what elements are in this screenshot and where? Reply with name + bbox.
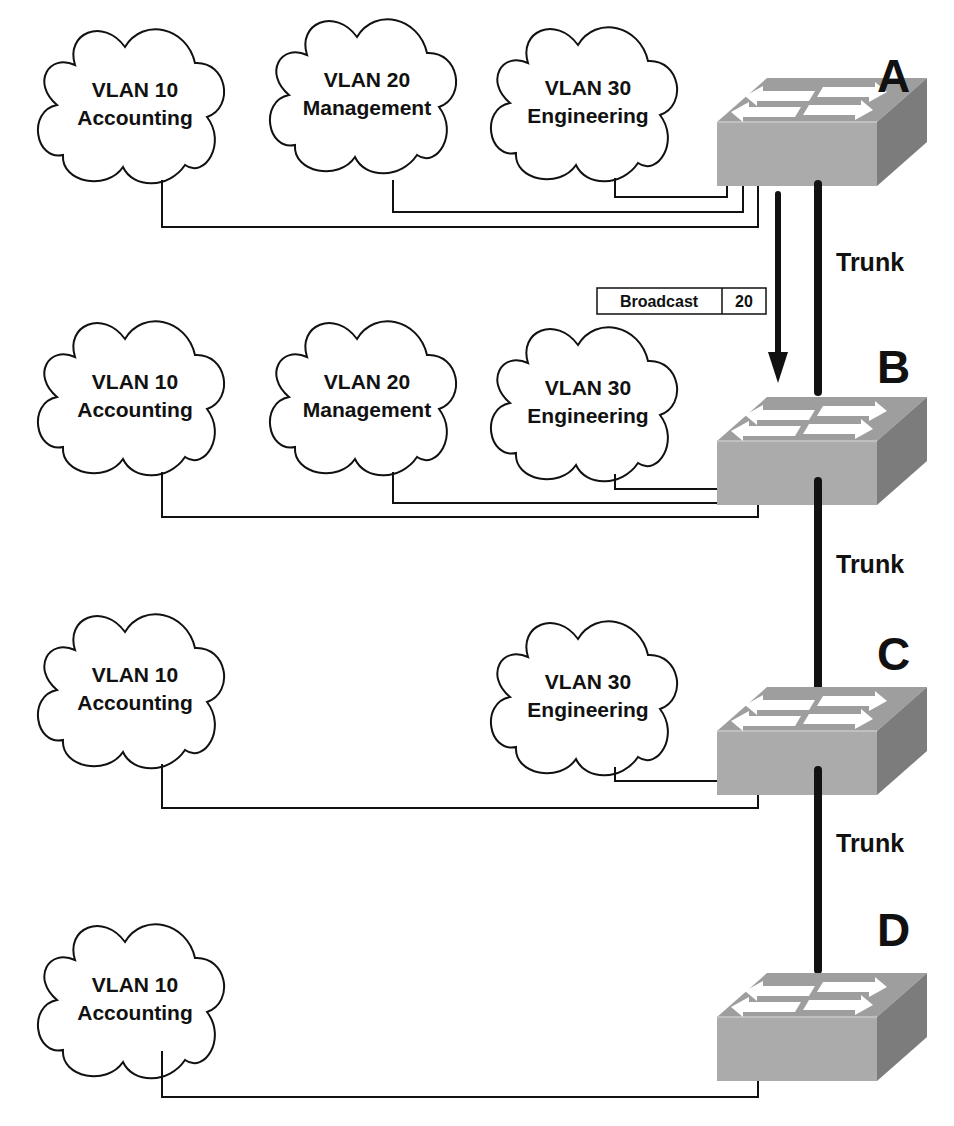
switch-d [717,973,927,1081]
cloud-vlan-name: Engineering [527,698,648,721]
switch-a-label: A [877,50,910,102]
access-links-a [162,178,758,227]
frame-type: Broadcast [620,293,699,310]
cloud-vlan-label: VLAN 10 [92,370,178,393]
row-c: VLAN 10 Accounting VLAN 30 Engineering C [38,614,927,808]
switch-b-label: B [877,341,910,393]
row-d: VLAN 10 Accounting D [38,904,927,1097]
row-a: VLAN 10 Accounting VLAN 20 Management VL… [38,19,927,227]
cloud-vlan-label: VLAN 30 [545,376,631,399]
cloud-vlan-label: VLAN 10 [92,973,178,996]
access-links-c [162,764,758,808]
switch-d-label: D [877,904,910,956]
broadcast-arrow [768,194,788,383]
cloud-vlan-label: VLAN 30 [545,670,631,693]
frame-vlan-tag: 20 [735,293,753,310]
switch-c-label: C [877,628,910,680]
cloud-vlan-name: Management [303,96,431,119]
cloud-vlan-name: Engineering [527,404,648,427]
cloud-vlan-name: Engineering [527,104,648,127]
cloud-vlan-name: Accounting [77,106,193,129]
row-b: VLAN 10 Accounting VLAN 20 Management VL… [38,321,927,517]
vlan-trunk-diagram: VLAN 10 Accounting VLAN 20 Management VL… [0,0,954,1126]
access-links-d [162,1051,758,1097]
cloud-vlan-name: Accounting [77,398,193,421]
cloud-vlan10-a: VLAN 10 Accounting [38,29,224,183]
cloud-vlan-name: Accounting [77,1001,193,1024]
cloud-vlan30-b: VLAN 30 Engineering [491,327,677,481]
cloud-vlan10-b: VLAN 10 Accounting [38,321,224,475]
broadcast-frame: Broadcast 20 [597,288,766,314]
access-links-b [162,472,758,517]
cloud-vlan30-a: VLAN 30 Engineering [491,27,677,181]
cloud-vlan-name: Management [303,398,431,421]
cloud-vlan-label: VLAN 30 [545,76,631,99]
cloud-vlan20-b: VLAN 20 Management [270,321,456,475]
trunk-label-bc: Trunk [836,550,904,578]
trunk-label-cd: Trunk [836,829,904,857]
cloud-vlan-label: VLAN 10 [92,663,178,686]
cloud-vlan-label: VLAN 10 [92,78,178,101]
cloud-vlan10-d: VLAN 10 Accounting [38,924,224,1078]
trunk-label-ab: Trunk [836,248,904,276]
cloud-vlan20-a: VLAN 20 Management [270,19,456,173]
cloud-vlan30-c: VLAN 30 Engineering [491,621,677,775]
cloud-vlan-name: Accounting [77,691,193,714]
cloud-vlan-label: VLAN 20 [324,68,410,91]
cloud-vlan-label: VLAN 20 [324,370,410,393]
cloud-vlan10-c: VLAN 10 Accounting [38,614,224,768]
